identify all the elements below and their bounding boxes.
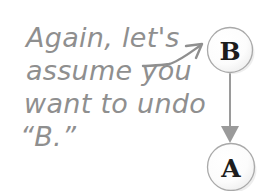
note-line-2: assume you xyxy=(26,55,192,86)
node-b[interactable]: B xyxy=(208,28,255,75)
handwritten-note: Again, let's assume you want to undo “B.… xyxy=(20,22,206,152)
note-line-1: Again, let's xyxy=(24,22,180,53)
node-a-label: A xyxy=(220,154,241,183)
node-b-label: B xyxy=(219,37,240,66)
diagram-scene: Again, let's assume you want to undo “B.… xyxy=(0,0,279,191)
edge-arrowhead-icon xyxy=(221,126,239,143)
note-line-3: want to undo xyxy=(24,88,206,119)
edge-b-to-a xyxy=(221,73,239,143)
screenshot-canvas: Again, let's assume you want to undo “B.… xyxy=(0,0,279,191)
node-a[interactable]: A xyxy=(208,144,257,192)
note-line-4: “B.” xyxy=(20,121,77,152)
